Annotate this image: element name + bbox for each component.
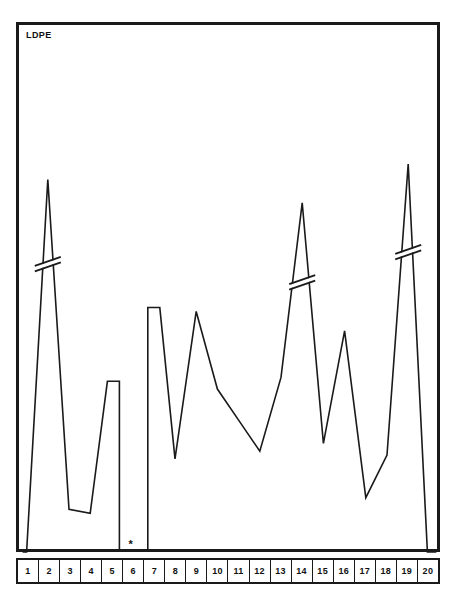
x-axis-cell-7: 7: [144, 560, 165, 582]
x-axis-cell-5: 5: [102, 560, 123, 582]
x-axis-cell-16: 16: [334, 560, 355, 582]
x-axis-cell-14: 14: [292, 560, 313, 582]
x-axis-cell-1: 1: [18, 560, 39, 582]
x-axis-cell-20: 20: [418, 560, 438, 582]
chart-title: LDPE: [26, 30, 52, 41]
x-axis-cell-15: 15: [313, 560, 334, 582]
x-axis-cell-2: 2: [39, 560, 60, 582]
x-axis-cell-6: 6: [123, 560, 144, 582]
plot-frame: [16, 22, 440, 552]
x-axis-cell-8: 8: [165, 560, 186, 582]
x-axis-cell-17: 17: [355, 560, 376, 582]
x-axis-cell-12: 12: [250, 560, 271, 582]
x-axis-cell-11: 11: [228, 560, 249, 582]
x-axis-label-row: 1234567891011121314151617181920: [16, 558, 440, 584]
chart-figure: LDPE * 1234567891011121314151617181920: [0, 0, 456, 594]
x-axis-cell-4: 4: [81, 560, 102, 582]
x-axis-cell-19: 19: [397, 560, 418, 582]
x-axis-cell-9: 9: [186, 560, 207, 582]
x-axis-cell-3: 3: [60, 560, 81, 582]
x-axis-cell-10: 10: [207, 560, 228, 582]
asterisk-annotation: *: [129, 540, 133, 548]
x-axis-cell-18: 18: [376, 560, 397, 582]
x-axis-cell-13: 13: [271, 560, 292, 582]
